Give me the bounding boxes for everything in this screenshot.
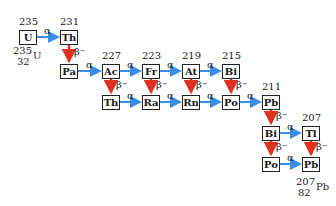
beta-label: β− <box>276 110 288 121</box>
alpha-label: α <box>207 59 214 70</box>
alpha-label: α <box>86 59 93 70</box>
beta-label: β− <box>236 79 248 90</box>
alpha-label: α <box>167 90 174 101</box>
mass-number: 227 <box>102 50 121 61</box>
nuclide-box-fr: Fr <box>142 64 160 79</box>
nuclide-box-th: Th <box>60 30 78 45</box>
nuclide-box-th: Th <box>102 95 120 110</box>
alpha-label: α <box>127 90 134 101</box>
beta-label: β− <box>276 141 288 152</box>
alpha-label: α <box>287 121 294 132</box>
mass-number: 207 <box>302 112 321 123</box>
nuclide-box-at: At <box>182 64 200 79</box>
alpha-label: α <box>127 59 134 70</box>
beta-label: β− <box>116 79 128 90</box>
mass-number: 219 <box>182 50 201 61</box>
mass-number: 223 <box>142 50 161 61</box>
mass-number: 235 <box>19 16 38 27</box>
nuclide-box-tl: Tl <box>302 126 320 141</box>
nuclide-box-ra: Ra <box>142 95 160 110</box>
nuclide-box-bi: Bi <box>222 64 240 79</box>
beta-label: β− <box>316 141 328 152</box>
beta-label: β− <box>74 46 86 57</box>
nuclide-box-pa: Pa <box>60 64 78 79</box>
alpha-label: α <box>44 25 51 36</box>
alpha-label: α <box>287 152 294 163</box>
nuclide-box-bi: Bi <box>262 126 280 141</box>
nuclide-box-ac: Ac <box>102 64 120 79</box>
beta-label: β− <box>196 79 208 90</box>
beta-label: β− <box>156 79 168 90</box>
alpha-label: α <box>207 90 214 101</box>
nuclide-box-po: Po <box>222 95 240 110</box>
nuclide-box-pb: Pb <box>302 157 320 172</box>
nuclide-box-po: Po <box>262 157 280 172</box>
nuclide-box-pb: Pb <box>262 95 280 110</box>
nuclide-box-rn: Rn <box>182 95 200 110</box>
mass-number: 215 <box>222 50 241 61</box>
mass-number: 211 <box>262 81 281 92</box>
mass-number: 231 <box>60 16 79 27</box>
alpha-label: α <box>167 59 174 70</box>
decay-chain-diagram: α α α α α α α α α α α β− β− β− β− β− β− … <box>0 0 336 206</box>
nuclide-box-u: U <box>19 30 37 45</box>
alpha-label: α <box>247 90 254 101</box>
